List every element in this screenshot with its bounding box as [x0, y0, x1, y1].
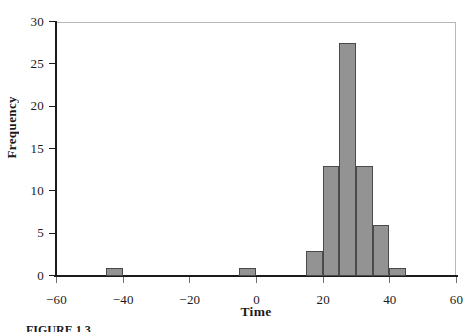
y-axis-tick-label: 0: [37, 268, 44, 284]
x-axis-title: Time: [56, 304, 456, 320]
x-axis-tick: −20: [189, 277, 190, 283]
histogram-figure: 051015202530 −60−40−200204060 Frequency …: [0, 0, 476, 332]
x-axis-tick: −40: [123, 277, 124, 283]
y-axis-tick: 15: [49, 148, 55, 149]
y-axis-tick: 0: [49, 275, 55, 276]
plot-frame: [56, 22, 456, 276]
x-axis-tick: 20: [323, 277, 324, 283]
y-axis-tick: 25: [49, 63, 55, 64]
histogram-bar: [339, 43, 356, 276]
y-axis-tick: 20: [49, 106, 55, 107]
y-axis-tick-label: 30: [31, 14, 44, 30]
histogram-bar: [106, 268, 123, 276]
y-axis-title: Frequency: [4, 96, 26, 159]
histogram-bar: [239, 268, 256, 276]
y-axis-tick: 5: [49, 233, 55, 234]
y-axis-tick-label: 10: [31, 183, 44, 199]
histogram-bar: [389, 268, 406, 276]
x-axis-tick: −60: [56, 277, 57, 283]
figure-caption: FIGURE 1.3: [26, 323, 91, 332]
y-axis-tick: 30: [49, 21, 55, 22]
histogram-bar: [373, 225, 390, 276]
histogram-bar: [356, 166, 373, 276]
y-axis-tick-label: 5: [37, 225, 44, 241]
y-axis-tick-label: 20: [31, 98, 44, 114]
y-axis-tick-label: 25: [31, 56, 44, 72]
x-axis-tick: 60: [456, 277, 457, 283]
x-axis-tick: 40: [389, 277, 390, 283]
plot-area: 051015202530 −60−40−200204060: [56, 22, 456, 276]
y-axis-tick: 10: [49, 190, 55, 191]
x-axis-tick: 0: [256, 277, 257, 283]
histogram-bar: [323, 166, 340, 276]
y-axis-line: [55, 21, 57, 277]
y-axis-tick-label: 15: [31, 141, 44, 157]
histogram-bar: [306, 251, 323, 276]
